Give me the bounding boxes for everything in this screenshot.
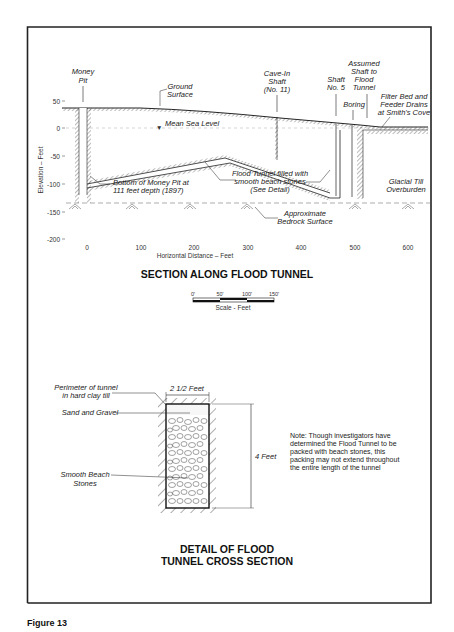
svg-text:50: 50 [53, 98, 61, 105]
figure-frame-border [28, 27, 205, 603]
label-boring: Boring [343, 100, 366, 109]
svg-text:600: 600 [403, 244, 414, 251]
svg-text:(No. 11): (No. 11) [264, 85, 291, 94]
svg-text:at Smith's Cove: at Smith's Cove [378, 108, 430, 117]
section-along-flood-tunnel: 50 0 -50 -100 -150 -200 Elevation – Feet [37, 59, 430, 280]
scale-bar: 0' 50' 100' 150' Scale - Feet [191, 291, 279, 311]
svg-text:100: 100 [136, 244, 147, 251]
svg-text:150': 150' [269, 291, 279, 297]
label-beach-stones: Smooth Beach [60, 470, 109, 479]
height-dimension: 4 Feet [255, 452, 277, 461]
svg-text:0': 0' [191, 291, 195, 297]
svg-text:400: 400 [296, 244, 307, 251]
svg-text:Overburden: Overburden [386, 185, 426, 194]
detail-cross-section: 2 1/2 Feet 4 Feet Perimeter of tunnel in… [54, 383, 399, 567]
svg-text:Tunnel: Tunnel [353, 83, 376, 92]
svg-text:No. 5: No. 5 [327, 83, 346, 92]
svg-text:Bedrock Surface: Bedrock Surface [277, 217, 332, 226]
assumed-shaft [357, 127, 363, 199]
label-mean-sea-level: Mean Sea Level [165, 119, 220, 128]
detail-note: Note: Though investigators have determin… [290, 432, 399, 472]
svg-text:Pit: Pit [79, 76, 89, 85]
y-axis: 50 0 -50 -100 -150 -200 Elevation – Feet [37, 98, 65, 243]
svg-text:300: 300 [243, 244, 254, 251]
detail-title-line1: DETAIL OF FLOOD [180, 543, 275, 555]
scale-label: Scale - Feet [215, 304, 250, 311]
svg-text:Note: Though investigators hav: Note: Though investigators have [290, 432, 391, 440]
svg-text:-100: -100 [47, 181, 60, 188]
svg-text:(See Detail): (See Detail) [250, 185, 290, 194]
svg-text:200: 200 [189, 244, 200, 251]
figure-caption: Figure 13 [27, 618, 67, 628]
svg-text:packing may not extend through: packing may not extend throughout [290, 456, 399, 464]
svg-text:the entire length of the tunne: the entire length of the tunnel [290, 464, 381, 472]
svg-text:0: 0 [85, 244, 89, 251]
svg-text:-150: -150 [47, 209, 60, 216]
money-pit-shaft [79, 108, 87, 195]
label-money-pit: Money [72, 67, 96, 76]
svg-text:Surface: Surface [167, 90, 193, 99]
detail-title-line2: TUNNEL CROSS SECTION [161, 555, 293, 567]
svg-text:in hard clay till: in hard clay till [62, 391, 110, 400]
y-axis-label: Elevation – Feet [37, 146, 44, 193]
svg-text:500: 500 [350, 244, 361, 251]
svg-text:50': 50' [216, 291, 223, 297]
svg-text:100': 100' [242, 291, 252, 297]
x-axis-label: Horizontal Distance – Feet [157, 252, 234, 259]
svg-text:determined the Flood Tunnel to: determined the Flood Tunnel to be [290, 440, 397, 447]
label-sand-gravel: Sand and Gravel [62, 408, 119, 417]
flood-tunnel-diagram: 50 0 -50 -100 -150 -200 Elevation – Feet [0, 0, 454, 632]
svg-text:▼: ▼ [156, 124, 162, 131]
cave-in-shaft [275, 117, 278, 159]
svg-text:-200: -200 [47, 236, 60, 243]
svg-text:111 feet depth (1897): 111 feet depth (1897) [113, 186, 184, 195]
svg-text:0: 0 [56, 125, 60, 132]
svg-text:-50: -50 [51, 153, 61, 160]
svg-text:packed with beach stones, this: packed with beach stones, this [290, 448, 386, 456]
x-axis: 0 100 200 300 400 500 600 Horizontal Dis… [85, 244, 414, 259]
svg-text:Stones: Stones [73, 479, 97, 488]
width-dimension: 2 1/2 Feet [169, 384, 205, 393]
section-title: SECTION ALONG FLOOD TUNNEL [141, 268, 314, 280]
